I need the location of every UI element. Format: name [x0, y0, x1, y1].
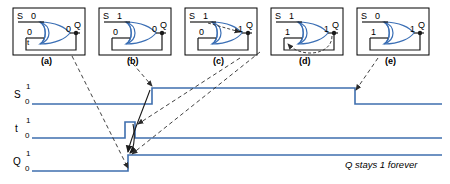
panel-b-input-top-value: 1	[117, 12, 122, 21]
panel-a-input-bottom-value: 0	[27, 28, 32, 37]
panel-c-output-value: 1	[238, 25, 243, 34]
waveform-q-high-label: 1	[26, 149, 30, 158]
panel-e-output-value: 1	[410, 25, 415, 34]
figure-caption: Q stays 1 forever	[345, 159, 417, 170]
panel-d-input-bottom-value: 1	[285, 28, 290, 37]
panel-c-input-bottom-value: 0	[199, 28, 204, 37]
panel-d-input-top-label: S	[275, 12, 281, 21]
panel-e-input-top-value: 0	[375, 12, 380, 21]
panel-b-input-top-label: S	[103, 12, 109, 21]
panel-c-input-top-value: 1	[203, 12, 208, 21]
panel-c-input-top-label: S	[189, 12, 195, 21]
panel-caption-a: (a)	[41, 56, 52, 66]
panel-d-output-value: 1	[324, 25, 329, 34]
link-a-to-q	[72, 56, 128, 168]
waveform-q-low-label: 0	[25, 164, 29, 173]
link-e-to-s	[356, 58, 378, 90]
panel-e-output-label: Q	[418, 21, 425, 30]
waveform-s-high-label: 1	[26, 82, 30, 91]
link-c-to-t	[138, 58, 240, 124]
panel-a-feedback-label: t	[27, 39, 29, 47]
waveform-s-low-label: 0	[25, 97, 29, 106]
panel-caption-d: (d)	[299, 56, 311, 66]
panel-e-input-top-label: S	[361, 12, 367, 21]
panel-d-input-top-value: 1	[289, 12, 294, 21]
panel-a-input-top-label: S	[17, 12, 23, 21]
waveform-label-s: S	[14, 89, 21, 100]
panel-caption-e: (e)	[385, 56, 396, 66]
panel-caption-b: (b)	[127, 56, 139, 66]
panel-b-output-value: 0	[152, 25, 157, 34]
panel-a-input-top-value: 0	[31, 12, 36, 21]
panel-a-output-label: Q	[74, 21, 81, 30]
waveform-label-t: t	[15, 123, 18, 134]
link-d-to-q	[132, 52, 260, 154]
panel-b-output-label: Q	[160, 21, 167, 30]
waveform-t-high-label: 1	[26, 116, 30, 125]
waveform-label-q: Q	[13, 156, 21, 167]
panel-e-input-bottom-value: 1	[371, 28, 376, 37]
panel-d-output-label: Q	[332, 21, 339, 30]
panel-b-input-bottom-value: 0	[113, 28, 118, 37]
figure-root: S 0 0 t 0 Q (a) S 1 0 0 Q (b) S 1 0 1 Q …	[0, 0, 450, 184]
waveform-t-low-label: 0	[25, 131, 29, 140]
panel-caption-c: (c)	[213, 56, 224, 66]
panel-a-output-value: 0	[66, 25, 71, 34]
panel-c-output-label: Q	[246, 21, 253, 30]
